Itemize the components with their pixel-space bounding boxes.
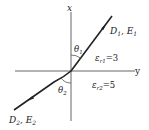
angle-arc-theta1	[71, 55, 81, 58]
field-label-region2: D2, E2	[8, 115, 36, 126]
permittivity-label-region2: εr2=5	[92, 80, 115, 91]
angle-label-theta2: θ2	[58, 85, 67, 96]
angle-arc-theta2	[61, 78, 71, 83]
y-axis-label: y	[134, 66, 141, 76]
refraction-diagram: x y D1, E1 θ1 εr1=3 θ2 εr2=5 D2, E2	[0, 0, 149, 130]
permittivity-label-region1: εr1=3	[95, 53, 118, 64]
x-axis-label: x	[67, 3, 72, 13]
field-label-region1: D1, E1	[109, 26, 137, 37]
angle-label-theta1: θ1	[74, 44, 83, 55]
